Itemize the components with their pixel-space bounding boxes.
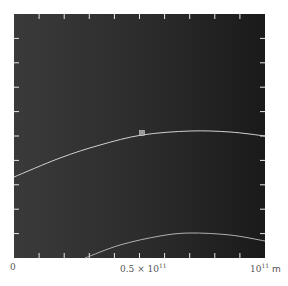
central-body-marker bbox=[140, 131, 145, 136]
plot-overlay bbox=[0, 0, 288, 286]
orbit-figure: 0 0.5 × 1011 1011m bbox=[0, 0, 288, 286]
x-tick-end-exponent: 11 bbox=[261, 262, 269, 269]
x-axis-unit: m bbox=[272, 264, 281, 274]
x-tick-label-zero: 0 bbox=[10, 262, 16, 272]
x-tick-mid-base: 0.5 × 10 bbox=[120, 264, 159, 274]
lower-orbit-curve bbox=[85, 233, 265, 258]
x-tick-label-end: 1011m bbox=[250, 262, 281, 274]
x-tick-end-base: 10 bbox=[250, 264, 261, 274]
x-tick-mid-exponent: 11 bbox=[159, 262, 167, 269]
x-tick-label-mid: 0.5 × 1011 bbox=[120, 262, 167, 274]
axis-ticks bbox=[14, 14, 265, 258]
x-tick-zero-text: 0 bbox=[10, 262, 16, 272]
upper-orbit-curve bbox=[14, 131, 265, 177]
